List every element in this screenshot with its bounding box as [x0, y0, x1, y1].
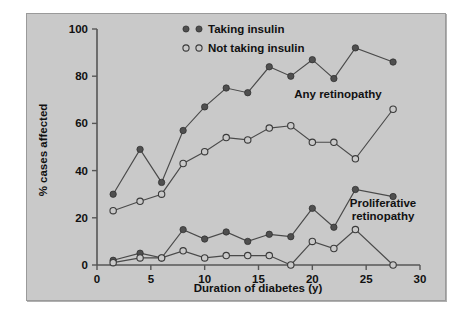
x-tick-label: 5 — [148, 273, 155, 285]
x-tick-label: 25 — [360, 273, 373, 285]
figure-container: 020406080100 051015202530 Duration of di… — [0, 0, 468, 317]
legend-label-not-taking-insulin: Not taking insulin — [208, 42, 304, 54]
data-point — [223, 85, 229, 91]
data-point — [390, 262, 396, 268]
data-point — [288, 73, 294, 79]
data-point — [180, 127, 186, 133]
annotation-any-retinopathy: Any retinopathy — [294, 88, 382, 100]
data-point — [352, 45, 358, 51]
data-point — [266, 231, 272, 237]
data-point — [390, 59, 396, 65]
annotation-proliferative-retinopathy-line2: retinopathy — [352, 210, 415, 222]
legend: Taking insulin Not taking insulin — [183, 23, 305, 54]
data-point — [110, 191, 116, 197]
x-tick-label: 30 — [414, 273, 427, 285]
retinopathy-line-chart: 020406080100 051015202530 Duration of di… — [0, 0, 468, 317]
data-point — [158, 255, 164, 261]
data-point — [245, 238, 251, 244]
y-axis-title: % cases affected — [37, 104, 49, 197]
data-point — [266, 125, 272, 131]
series-line — [113, 48, 393, 194]
y-tick-label: 60 — [75, 117, 88, 129]
y-tick-label: 20 — [75, 212, 88, 224]
data-point — [331, 245, 337, 251]
data-point — [180, 160, 186, 166]
data-point — [309, 238, 315, 244]
data-point — [158, 191, 164, 197]
data-point — [223, 134, 229, 140]
data-point — [309, 139, 315, 145]
data-point — [309, 205, 315, 211]
x-axis-title: Duration of diabetes (y) — [194, 282, 323, 294]
data-point — [201, 255, 207, 261]
legend-marker-open-a — [183, 45, 189, 51]
data-point — [223, 229, 229, 235]
legend-marker-filled-a — [183, 26, 189, 32]
data-point — [352, 226, 358, 232]
data-point — [180, 226, 186, 232]
data-point — [110, 208, 116, 214]
data-point — [288, 123, 294, 129]
data-point — [352, 186, 358, 192]
data-point — [390, 106, 396, 112]
data-point — [245, 252, 251, 258]
data-point — [266, 252, 272, 258]
data-point — [331, 224, 337, 230]
data-point — [331, 139, 337, 145]
data-point — [201, 236, 207, 242]
data-point — [201, 149, 207, 155]
data-point — [158, 179, 164, 185]
data-point — [245, 137, 251, 143]
data-point — [137, 198, 143, 204]
data-point — [110, 259, 116, 265]
legend-marker-open-b — [196, 45, 202, 51]
series-polylines — [113, 48, 393, 265]
annotation-proliferative-retinopathy: Proliferative — [350, 197, 416, 209]
y-tick-label: 40 — [75, 165, 88, 177]
data-point — [352, 156, 358, 162]
y-tick-labels: 020406080100 — [69, 23, 88, 271]
annotations: Any retinopathy Proliferative retinopath… — [294, 88, 416, 222]
legend-marker-filled-b — [196, 26, 202, 32]
data-point — [245, 90, 251, 96]
data-point — [180, 248, 186, 254]
series-markers — [110, 45, 396, 269]
data-point — [288, 262, 294, 268]
series-line — [113, 230, 393, 265]
data-point — [201, 104, 207, 110]
x-tick-label: 0 — [94, 273, 100, 285]
legend-label-taking-insulin: Taking insulin — [208, 23, 284, 35]
data-point — [288, 233, 294, 239]
data-point — [309, 56, 315, 62]
data-point — [331, 75, 337, 81]
data-point — [223, 252, 229, 258]
y-tick-label: 100 — [69, 23, 88, 35]
y-tick-label: 0 — [82, 259, 88, 271]
data-point — [266, 64, 272, 70]
series-line — [113, 109, 393, 210]
data-point — [137, 255, 143, 261]
y-tick-label: 80 — [75, 70, 88, 82]
data-point — [137, 146, 143, 152]
